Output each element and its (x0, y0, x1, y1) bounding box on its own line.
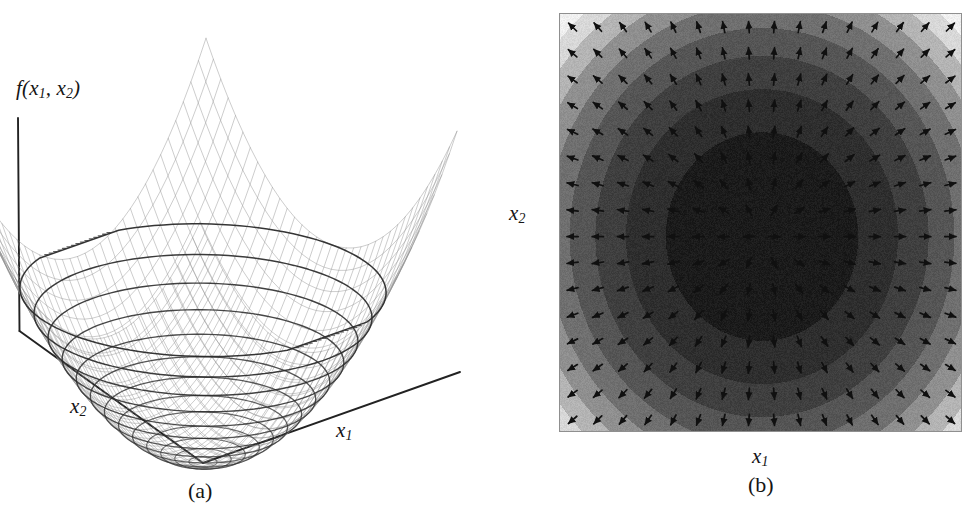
contour-ring (48, 283, 358, 395)
gradient-arrow (618, 313, 628, 318)
panel-b-caption: (b) (748, 474, 774, 496)
gradient-arrow (618, 129, 627, 135)
gradient-arrow (669, 128, 677, 136)
gradient-arrow (821, 127, 827, 136)
mesh-gridline (0, 79, 221, 300)
gradient-arrow (696, 74, 701, 84)
gradient-arrow (748, 100, 749, 111)
gradient-arrow (746, 206, 751, 216)
gradient-arrow (567, 183, 578, 186)
gradient-arrow (593, 156, 603, 160)
gradient-arrow (795, 260, 805, 266)
gradient-arrow (895, 182, 906, 186)
gradient-arrow (723, 22, 725, 33)
gradient-arrow (748, 74, 749, 85)
gradient-arrow (847, 75, 853, 84)
mesh-gridline (0, 203, 238, 413)
mesh-gridline (0, 148, 250, 369)
gradient-arrow (822, 101, 827, 111)
mesh-gridline (123, 219, 374, 429)
gradient-arrow (921, 49, 929, 57)
gradient-arrow (669, 155, 678, 162)
gradient-arrow (921, 416, 929, 424)
gradient-arrow (747, 179, 750, 190)
gradient-arrow (846, 101, 853, 110)
gradient-arrow (668, 209, 679, 212)
gradient-arrow (920, 156, 930, 160)
gradient-arrow (722, 336, 726, 346)
gradient-arrow (895, 156, 905, 161)
gradient-arrow (567, 156, 578, 160)
gradient-arrow (592, 210, 603, 212)
gradient-arrow (671, 48, 676, 58)
gradient-arrow (643, 209, 654, 211)
gradient-arrow (797, 153, 802, 163)
gradient-arrow (643, 155, 653, 161)
gradient-arrow (872, 415, 878, 424)
gradient-arrow (592, 262, 603, 264)
gradient-arrow (798, 48, 801, 59)
gradient-arrow (846, 337, 854, 345)
gradient-arrow (798, 74, 801, 85)
gradient-arrow (593, 129, 603, 134)
gradient-arrow (748, 153, 750, 164)
gradient-arrow (722, 127, 726, 137)
gradient-arrow (822, 363, 827, 373)
gradient-arrow (722, 100, 725, 111)
gradient-arrow (668, 182, 678, 187)
gradient-arrow (797, 336, 801, 346)
mesh-gridline (0, 38, 206, 259)
gradient-arrow (820, 181, 829, 188)
gradient-arrow (695, 311, 702, 319)
gradient-arrow (693, 209, 704, 213)
gradient-arrow (721, 153, 726, 163)
gradient-arrow (697, 48, 701, 58)
gradient-arrow (920, 287, 931, 290)
gradient-arrow (697, 415, 701, 425)
gradient-arrow (618, 287, 629, 291)
gradient-arrow (870, 287, 880, 291)
gradient-arrow (722, 388, 725, 399)
gradient-arrow (668, 286, 678, 291)
gradient-arrow (920, 129, 930, 134)
mesh-gridline (191, 82, 442, 292)
gradient-arrow (774, 48, 775, 59)
gradient-arrow (644, 364, 652, 372)
gradient-arrow (871, 338, 880, 345)
gradient-arrow (847, 389, 853, 398)
gradient-arrow (671, 415, 676, 425)
gradient-arrow (820, 286, 829, 293)
gradient-arrow (720, 180, 727, 189)
gradient-arrow (567, 262, 578, 263)
gradient-arrow (921, 76, 930, 83)
gradient-arrow (846, 128, 854, 136)
gradient-arrow (896, 416, 903, 425)
gradient-arrow (592, 287, 603, 290)
gradient-arrow (695, 127, 701, 136)
gradient-arrow (771, 258, 776, 268)
gradient-arrow (844, 209, 855, 212)
gradient-arrow (872, 22, 878, 32)
gradient-arrow (669, 337, 677, 345)
gradient-arrow (870, 182, 880, 186)
gradient-arrow (567, 288, 578, 291)
gradient-arrow (920, 262, 931, 264)
gradient-arrow (618, 182, 629, 186)
gradient-arrow (895, 262, 906, 264)
gradient-arrow (794, 208, 804, 214)
gradient-arrow (748, 388, 749, 399)
gradient-arrow (945, 183, 956, 186)
gradient-arrow (695, 154, 703, 162)
gradient-arrow (871, 75, 878, 84)
gradient-arrow (798, 362, 801, 373)
gradient-arrow (847, 22, 852, 32)
panel-a-x1-axis-label: x1 (336, 420, 352, 443)
gradient-arrow (798, 100, 801, 111)
gradient-arrow (845, 182, 855, 187)
gradient-arrow (695, 337, 701, 346)
gradient-arrow (846, 363, 853, 372)
gradient-arrow (746, 258, 751, 268)
gradient-arrow (569, 23, 577, 31)
gradient-arrow (618, 338, 627, 344)
gradient-arrow (945, 156, 956, 160)
